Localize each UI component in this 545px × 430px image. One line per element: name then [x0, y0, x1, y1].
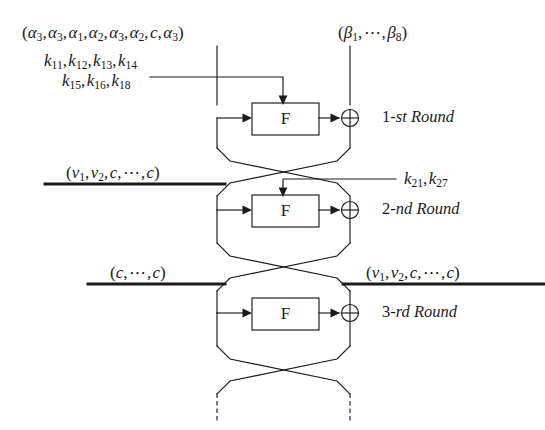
round1-key-label-line1: k11, k12, k13, k14	[44, 52, 137, 72]
round1-label: 1-st Round	[382, 109, 454, 126]
round2-f-label: F	[252, 202, 319, 219]
round2-left-annotation: (v1, v2, c, ⋯, c)	[66, 164, 160, 184]
round3-label-suffix: rd	[396, 302, 410, 321]
round1-f-input-arrowhead	[243, 114, 253, 123]
round3-label: 3-rd Round	[382, 304, 457, 321]
round2-label-suffix: nd	[396, 199, 413, 218]
round1-label-suffix: st	[396, 107, 407, 126]
crossover2-right-to-left	[217, 243, 350, 291]
round2-key-label: k21, k27	[404, 170, 448, 190]
round3-label-number: 3-	[382, 302, 396, 321]
left-input-tuple: (α3, α3, α1, α2, α3, α2, c, α3)	[22, 24, 184, 44]
crossover3-right-to-left	[217, 346, 350, 394]
round3-right-annotation: (v1, v2, c, ⋯, c)	[366, 264, 460, 284]
round3-left-annotation: (c, ⋯, c)	[110, 264, 166, 281]
round1-f-output-arrowhead	[331, 114, 341, 123]
round2-label-number: 2-	[382, 199, 396, 218]
round2-key-line	[283, 179, 396, 188]
round1-label-word: Round	[411, 107, 454, 126]
round2-label-word: Round	[416, 199, 459, 218]
round3-f-input-arrowhead	[243, 309, 253, 318]
round1-key-label-line2: k15, k16, k18	[62, 72, 131, 92]
right-input-tuple: (β1, ⋯, β8)	[338, 24, 407, 44]
round2-label: 2-nd Round	[382, 201, 459, 218]
round1-f-label: F	[252, 110, 319, 127]
round3-label-word: Round	[414, 302, 457, 321]
round1-label-number: 1-	[382, 107, 396, 126]
round2-f-input-arrowhead	[243, 206, 253, 215]
round3-f-label: F	[252, 305, 319, 322]
round3-f-output-arrowhead	[331, 309, 341, 318]
round2-f-output-arrowhead	[331, 206, 341, 215]
feistel-network-figure: (α3, α3, α1, α2, α3, α2, c, α3) (α₃, α₃,…	[0, 0, 545, 430]
